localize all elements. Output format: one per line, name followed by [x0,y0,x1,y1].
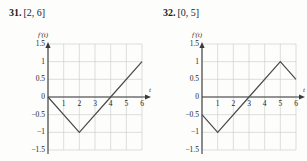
x-tick-label: 5 [120,100,132,108]
exercise-32-plot [154,30,307,161]
y-tick-label: 0 [41,93,45,101]
x-tick-label: 1 [212,100,224,108]
exercise-31-interval: [2, 6] [24,7,46,18]
worksheet-page: 31.[2, 6] f'(t) t −1.5−1−0.500.511.51234… [0,0,307,161]
y-tick-label: −0.5 [31,111,45,119]
y-tick-label: −1.5 [185,146,199,154]
y-tick-label: −1 [37,128,45,136]
y-tick-label: −0.5 [185,111,199,119]
x-tick-label: 1 [58,100,70,108]
exercise-31-plot [0,30,153,161]
axes [45,42,151,154]
x-tick-label: 6 [136,100,148,108]
y-tick-label: 0 [195,93,199,101]
exercise-31-figure: f'(t) t −1.5−1−0.500.511.5123456 [0,30,153,161]
y-tick-label: 1.5 [190,40,199,48]
y-tick-label: 1 [195,58,199,66]
x-tick-label: 2 [227,100,239,108]
x-tick-label: 6 [290,100,302,108]
y-tick-label: −1.5 [31,146,45,154]
exercise-31: 31.[2, 6] f'(t) t −1.5−1−0.500.511.51234… [0,0,153,161]
y-tick-label: 0.5 [36,75,45,83]
x-tick-label: 5 [274,100,286,108]
x-tick-label: 2 [73,100,85,108]
x-tick-label: 4 [105,100,117,108]
exercise-32-figure: f'(t) t −1.5−1−0.500.511.5123456 [154,30,307,161]
exercise-32: 32.[0, 5] f'(t) t −1.5−1−0.500.511.51234… [154,0,307,161]
exercise-32-header: 32.[0, 5] [163,7,199,19]
exercise-32-number: 32. [163,7,176,18]
y-tick-label: 1 [41,58,45,66]
exercise-31-header: 31.[2, 6] [9,7,45,19]
x-tick-label: 4 [259,100,271,108]
axes [199,42,305,154]
y-tick-label: 1.5 [36,40,45,48]
x-tick-label: 3 [243,100,255,108]
y-tick-label: −1 [191,128,199,136]
y-tick-label: 0.5 [190,75,199,83]
x-tick-label: 3 [89,100,101,108]
exercise-32-interval: [0, 5] [178,7,200,18]
exercise-31-number: 31. [9,7,22,18]
